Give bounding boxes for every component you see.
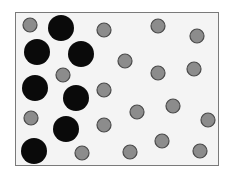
large-particle-icon (22, 75, 48, 101)
small-particle-icon (23, 18, 37, 32)
small-particle-icon (187, 62, 201, 76)
large-particle-icon (53, 116, 79, 142)
small-particle-icon (190, 29, 204, 43)
small-particle-icon (56, 68, 70, 82)
large-particle-icon (63, 85, 89, 111)
large-particle-icon (48, 15, 74, 41)
small-particle-icon (97, 118, 111, 132)
particle-diagram (0, 0, 236, 176)
small-particle-icon (97, 83, 111, 97)
large-particle-icon (21, 138, 47, 164)
small-particle-icon (118, 54, 132, 68)
small-particle-icon (97, 23, 111, 37)
large-particle-icon (68, 41, 94, 67)
small-particle-icon (130, 105, 144, 119)
small-particle-icon (166, 99, 180, 113)
small-particle-icon (151, 66, 165, 80)
small-particle-icon (75, 146, 89, 160)
large-particle-icon (24, 39, 50, 65)
small-particle-icon (151, 19, 165, 33)
small-particle-icon (24, 111, 38, 125)
small-particle-icon (155, 134, 169, 148)
small-particle-icon (201, 113, 215, 127)
small-particle-icon (123, 145, 137, 159)
small-particle-icon (193, 144, 207, 158)
